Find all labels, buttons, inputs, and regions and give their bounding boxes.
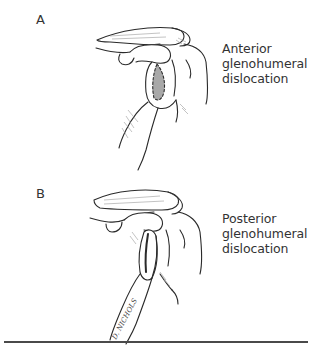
artist-signature: D. NICHOLS	[110, 297, 139, 342]
caption-line: Posterior	[222, 211, 307, 226]
caption-line: dislocation	[222, 71, 307, 86]
caption-line: dislocation	[222, 241, 307, 256]
caption-line: Anterior	[222, 41, 307, 56]
bottom-divider	[4, 341, 308, 343]
posterior-dislocation-illustration: D. NICHOLS	[0, 174, 312, 348]
caption-anterior-dislocation: Anterior glenohumeral dislocation	[222, 41, 307, 86]
anterior-dislocation-illustration	[0, 0, 312, 174]
caption-posterior-dislocation: Posterior glenohumeral dislocation	[222, 211, 307, 256]
caption-line: glenohumeral	[222, 56, 307, 71]
caption-line: glenohumeral	[222, 226, 307, 241]
